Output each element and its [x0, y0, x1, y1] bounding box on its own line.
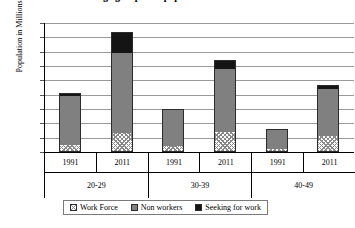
- bar-segment-non-workers: [267, 130, 287, 148]
- bar-segment-non-workers: [112, 53, 132, 133]
- bar-segment-non-workers: [318, 89, 338, 136]
- x-axis-labels: 199120111991201119912011 20-2930-3940-49: [44, 152, 354, 198]
- x-axis-year-row: 199120111991201119912011: [45, 152, 355, 172]
- bar-segment-seeking-for-work: [215, 61, 235, 69]
- bar-segment-work-force: [318, 136, 338, 151]
- x-axis-year-label: 2011: [97, 152, 149, 172]
- bar-column[interactable]: [317, 85, 339, 152]
- gridline: [44, 80, 354, 81]
- bar-segment-non-workers: [215, 69, 235, 132]
- bar-segment-non-workers: [60, 96, 80, 145]
- gridline: [44, 138, 354, 139]
- legend-label: Non workers: [141, 203, 183, 212]
- legend-item[interactable]: Non workers: [131, 203, 183, 212]
- bar-segment-work-force: [60, 145, 80, 151]
- legend-swatch-icon: [70, 204, 77, 211]
- bar-segment-seeking-for-work: [112, 33, 132, 53]
- x-axis-group-label: 30-39: [149, 173, 253, 198]
- gridline: [44, 23, 354, 24]
- gridline: [44, 37, 354, 38]
- legend-swatch-icon: [195, 204, 202, 211]
- gridline: [44, 123, 354, 124]
- bar-column[interactable]: [266, 129, 288, 152]
- chart-legend: Work ForceNon workersSeeking for work: [63, 200, 268, 215]
- gridline: [44, 95, 354, 96]
- bar-column[interactable]: [214, 60, 236, 152]
- x-axis-group-row: 20-2930-3940-49: [45, 172, 355, 198]
- bar-segment-work-force: [267, 149, 287, 151]
- bar-column[interactable]: [162, 109, 184, 152]
- y-axis-line: [44, 23, 45, 152]
- legend-label: Work Force: [80, 203, 118, 212]
- bar-column[interactable]: [59, 93, 81, 152]
- y-axis-title: Population in Millions: [15, 0, 24, 92]
- x-axis-year-label: 1991: [252, 152, 304, 172]
- plot-area: 051015202530354045: [44, 23, 354, 152]
- gridlines: 051015202530354045: [44, 23, 354, 152]
- x-axis-year-label: 1991: [45, 152, 97, 172]
- bar-segment-work-force: [215, 132, 235, 151]
- legend-item[interactable]: Work Force: [70, 203, 118, 212]
- x-axis-group-label: 20-29: [45, 173, 149, 198]
- chart-title: Age group wise population of workers: [0, 0, 354, 2]
- x-axis-year-label: 2011: [200, 152, 252, 172]
- legend-label: Seeking for work: [205, 203, 261, 212]
- bar-segment-work-force: [112, 133, 132, 151]
- bar-segment-work-force: [163, 146, 183, 151]
- gridline: [44, 66, 354, 67]
- x-axis-year-label: 2011: [304, 152, 355, 172]
- legend-item[interactable]: Seeking for work: [195, 203, 261, 212]
- gridline: [44, 109, 354, 110]
- bar-segment-non-workers: [163, 110, 183, 146]
- legend-swatch-icon: [131, 204, 138, 211]
- x-axis-group-label: 40-49: [252, 173, 355, 198]
- gridline: [44, 52, 354, 53]
- x-axis-year-label: 1991: [149, 152, 201, 172]
- bar-column[interactable]: [111, 32, 133, 152]
